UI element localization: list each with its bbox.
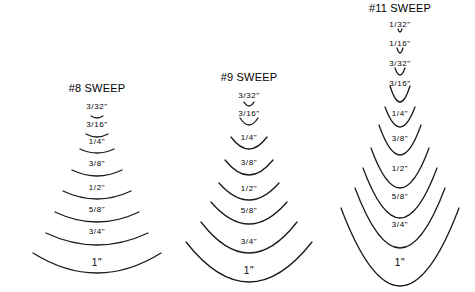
- size-label: 1/4": [89, 137, 105, 146]
- sweep-arc: [395, 68, 405, 75]
- sweep-arc: [63, 191, 131, 199]
- sweep-arc: [186, 242, 312, 282]
- size-label: 3/32": [86, 102, 107, 111]
- size-label: 1/2": [89, 183, 105, 192]
- size-label: 1": [92, 257, 102, 268]
- size-label: 3/8": [392, 134, 408, 143]
- size-label: 3/4": [392, 220, 408, 229]
- size-label: 1/2": [241, 184, 257, 193]
- sweep-arc: [72, 170, 122, 176]
- size-label: 3/8": [241, 158, 257, 167]
- size-label: 5/8": [241, 206, 257, 215]
- size-label: 3/4": [89, 227, 105, 236]
- sweep-title: #11 SWEEP: [369, 2, 431, 14]
- sweep-title: #8 SWEEP: [69, 82, 126, 94]
- size-label: 3/8": [89, 159, 105, 168]
- size-label: 1/4": [392, 109, 408, 118]
- size-label: 5/8": [392, 192, 408, 201]
- sweep-arc: [240, 118, 258, 125]
- sweep-arc: [398, 29, 402, 32]
- sweep-arc: [80, 149, 114, 153]
- size-label: 3/32": [389, 59, 410, 68]
- size-label: 1/4": [241, 133, 257, 142]
- sweep-arc: [244, 102, 254, 106]
- size-label: 3/16": [238, 109, 259, 118]
- sweep-column-2: #9 SWEEP3/32"3/16"1/4"3/8"1/2"5/8"3/4"1": [186, 71, 312, 282]
- size-label: 3/4": [241, 237, 257, 246]
- sweep-arc: [91, 116, 103, 118]
- size-label: 3/16": [86, 120, 107, 129]
- size-label: 1/32": [389, 20, 410, 29]
- size-label: 1/2": [392, 164, 408, 173]
- sweep-title: #9 SWEEP: [221, 71, 278, 83]
- sweep-arc: [397, 48, 403, 53]
- sweep-arc: [390, 86, 410, 102]
- size-label: 1/16": [389, 39, 410, 48]
- size-label: 3/32": [238, 91, 259, 100]
- size-label: 3/16": [389, 79, 410, 88]
- sweep-column-3: #11 SWEEP1/32"1/16"3/32"3/16"1/4"3/8"1/2…: [341, 2, 459, 286]
- sweep-column-1: #8 SWEEP3/32"3/16"1/4"3/8"1/2"5/8"3/4"1": [33, 82, 161, 273]
- gouge-sweep-diagram: #8 SWEEP3/32"3/16"1/4"3/8"1/2"5/8"3/4"1"…: [0, 0, 475, 292]
- size-label: 1": [395, 257, 405, 268]
- size-label: 1": [244, 265, 254, 276]
- size-label: 5/8": [89, 205, 105, 214]
